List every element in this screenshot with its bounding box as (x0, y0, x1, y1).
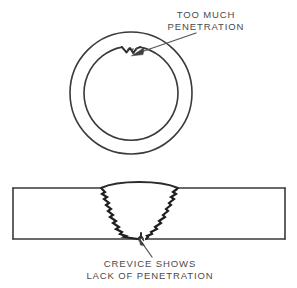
plate-weld-section-group: CREVICE SHOWS LACK OF PENETRATION (13, 182, 285, 281)
weld-right-fusion-line (146, 189, 177, 239)
weld-crown-reinforcement (101, 182, 178, 188)
top-callout-line2: PENETRATION (168, 21, 245, 32)
weld-left-fusion-line (102, 189, 138, 239)
top-callout-line1: TOO MUCH (177, 9, 236, 20)
top-leader-line (141, 33, 196, 52)
figure-canvas: TOO MUCH PENETRATION (0, 0, 297, 288)
weld-penetration-figure: TOO MUCH PENETRATION (0, 0, 297, 288)
pipe-inner-bore-arc (84, 47, 178, 140)
pipe-cross-section-group: TOO MUCH PENETRATION (70, 9, 244, 154)
bottom-callout-line2: LACK OF PENETRATION (86, 270, 213, 281)
bottom-callout-line1: CREVICE SHOWS (104, 258, 196, 269)
